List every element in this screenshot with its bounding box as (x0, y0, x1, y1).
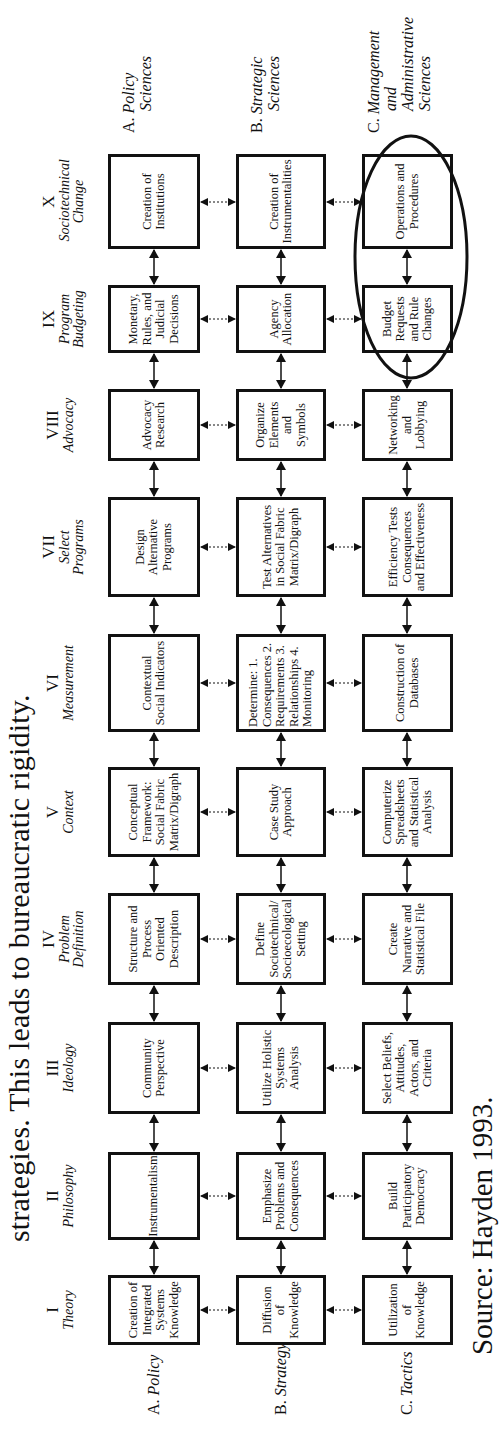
label-policy-sciences: A. Policy Sciences (120, 56, 154, 133)
label-strategic-sciences: B. Strategic Sciences (248, 56, 282, 133)
label-management-sciences: C. Management and Administrative Science… (365, 17, 433, 133)
horizontal-double-arrows (154, 250, 407, 1274)
highlight-ellipse (355, 136, 467, 378)
source-citation: Source: Hayden 1993. (466, 1096, 499, 1355)
